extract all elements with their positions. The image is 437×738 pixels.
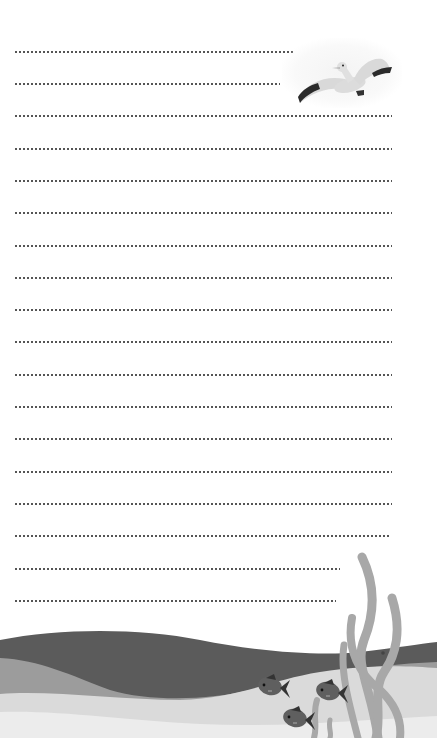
writing-line: [14, 277, 392, 279]
seaweed-icon: [314, 557, 400, 738]
writing-line: [14, 568, 340, 570]
writing-page: [0, 0, 437, 738]
mid-wave: [0, 658, 437, 738]
writing-line: [14, 180, 392, 182]
writing-line: [14, 503, 392, 505]
writing-line: [14, 600, 336, 602]
writing-line: [14, 148, 392, 150]
writing-line: [14, 212, 392, 214]
sand: [0, 712, 437, 738]
writing-line: [14, 309, 392, 311]
writing-line: [14, 438, 392, 440]
writing-line: [14, 471, 392, 473]
writing-line: [14, 51, 294, 53]
dark-wave: [0, 631, 437, 738]
writing-line: [14, 341, 392, 343]
writing-line: [14, 83, 280, 85]
writing-line: [14, 374, 392, 376]
writing-line: [14, 115, 392, 117]
seagull-icon: [290, 45, 395, 105]
writing-line: [14, 535, 391, 537]
light-wave: [0, 666, 437, 738]
writing-line: [14, 406, 392, 408]
fish-icon: [281, 706, 315, 730]
fish-icon: [314, 679, 348, 703]
ocean-scene: [0, 0, 437, 738]
writing-line: [14, 245, 392, 247]
fish-icon: [256, 674, 290, 698]
